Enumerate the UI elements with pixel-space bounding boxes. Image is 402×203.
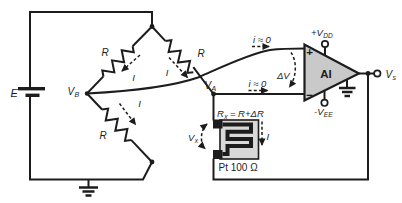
bias-current-top-label: i ≈ 0 (253, 34, 272, 45)
junction-bridge-bottom (150, 160, 155, 165)
sensor-device-label: Pt 100 Ω (219, 162, 259, 173)
ground-amp-icon (339, 88, 356, 96)
sensor-resistance-sub: x (223, 113, 228, 120)
wire-r3-lead-top (87, 94, 102, 110)
inverting-input-mark: − (306, 89, 313, 101)
sensor-voltage-arrow (201, 124, 207, 149)
node-vb-label: VB (68, 86, 80, 98)
resistor-bottom-left-label: R (99, 130, 106, 141)
wire-r1-lead-bottom (87, 76, 103, 93)
noninverting-input-mark: + (306, 46, 313, 58)
current-top-right-label: I (166, 67, 169, 78)
wire-r2-lead-top (152, 27, 165, 41)
ground-main-icon (79, 188, 98, 196)
positive-supply-sub: DD (323, 32, 333, 39)
current-arrow-bottom-left (120, 104, 136, 125)
delta-v-label: ΔV (276, 70, 291, 81)
vdd-terminal (322, 41, 328, 47)
sensor-resistance-base: R (217, 108, 224, 119)
junction-node-va (211, 92, 216, 97)
schematic-page: E R R R I I I VB VA i ≈ 0 i ≈ 0 ΔV + − A… (0, 0, 402, 203)
wire-source-bottom (30, 97, 152, 180)
node-va-sub: A (210, 85, 216, 92)
node-vb-sub: B (74, 91, 79, 98)
wire-r3-lead-bottom (131, 140, 152, 162)
output-terminal (374, 70, 380, 76)
wire-r1-lead-top (133, 27, 152, 47)
current-bottom-left-label: I (138, 98, 141, 109)
bias-current-bottom-label: i ≈ 0 (249, 78, 268, 89)
amplifier-label: AI (320, 68, 332, 80)
node-va-label: VA (205, 80, 217, 92)
source-label: E (11, 87, 19, 99)
sensor-resistance-label: Rx= R+ΔR (217, 108, 264, 120)
delta-v-arrow (290, 53, 296, 88)
pt100-terminal-top (213, 120, 223, 129)
sensor-current-label: I (267, 131, 270, 142)
resistor-top-right-label: R (197, 48, 204, 59)
sensor-resistance-equation: = R+ΔR (230, 108, 264, 119)
sensor-voltage-sub: x (194, 137, 199, 144)
negative-supply-sub: EE (324, 111, 333, 118)
battery-plate-long (18, 87, 45, 90)
negative-supply-label: -VEE (314, 106, 333, 118)
junction-node-vb (85, 91, 89, 95)
junction-amp-output (366, 71, 371, 76)
sensor-voltage-label: Vx (188, 132, 199, 144)
resistor-top-left-label: R (101, 47, 108, 58)
output-voltage-sub: s (392, 74, 396, 81)
current-top-left-label: I (132, 72, 135, 83)
circuit-diagram: E R R R I I I VB VA i ≈ 0 i ≈ 0 ΔV + − A… (0, 0, 402, 203)
pt100-terminal-bottom (213, 150, 223, 159)
positive-supply-label: +VDD (311, 27, 333, 39)
battery-plate-short (26, 94, 40, 97)
junction-bridge-top (150, 24, 155, 29)
output-voltage-label: Vs (386, 69, 397, 81)
